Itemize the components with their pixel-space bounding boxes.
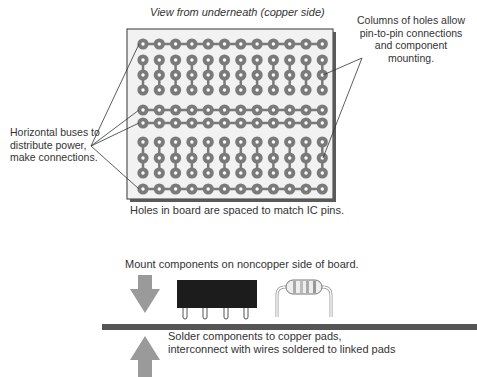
ic-pins [183, 308, 248, 319]
solder-caption-line1: Solder components to copper pads, [168, 330, 395, 343]
mount-caption: Mount components on noncopper side of bo… [125, 258, 359, 270]
ic-chip [177, 280, 257, 308]
solder-caption-line2: interconnect with wires soldered to link… [168, 343, 395, 356]
spacing-caption: Holes in board are spaced to match IC pi… [130, 204, 344, 216]
arrow-down-icon [130, 275, 160, 313]
buses-annotation: Horizontal buses to distribute power, ma… [10, 126, 100, 164]
columns-annotation: Columns of holes allow pin-to-pin connec… [352, 14, 470, 64]
solder-caption: Solder components to copper pads, interc… [168, 330, 395, 356]
resistor [277, 280, 331, 317]
arrow-up-icon [130, 336, 160, 377]
